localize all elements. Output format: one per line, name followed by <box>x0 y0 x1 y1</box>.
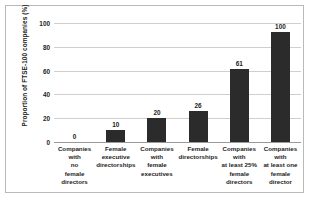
x-axis-label: Femaledirectorships <box>178 145 219 186</box>
x-axis-label: Companieswithfemaleexecutives <box>136 145 177 186</box>
bar-value-label: 61 <box>236 60 243 68</box>
bar[interactable] <box>147 118 166 142</box>
x-axis-label: Companieswithat least onefemaledirector <box>260 145 301 186</box>
bar[interactable] <box>106 130 125 142</box>
bar-group: 0 <box>54 23 95 142</box>
bar[interactable] <box>271 32 290 142</box>
plot-area: 100 80 60 40 20 0 010202661100 <box>54 23 301 142</box>
bar-value-label: 0 <box>73 133 77 141</box>
bar-group: 100 <box>260 23 301 142</box>
y-tick-0: 0 <box>46 139 50 146</box>
y-axis-title: Proportion of FTSE-100 companies (%) <box>21 4 28 128</box>
chart-figure: Proportion of FTSE-100 companies (%) 100… <box>5 5 304 193</box>
bar-group: 10 <box>95 23 136 142</box>
bar-group: 61 <box>219 23 260 142</box>
y-tick-80: 80 <box>43 43 50 50</box>
bar-series: 010202661100 <box>54 23 301 142</box>
bar-value-label: 26 <box>195 102 202 110</box>
y-tick-40: 40 <box>43 91 50 98</box>
x-axis-label: Femaleexecutivedirectorships <box>95 145 136 186</box>
bar[interactable] <box>230 69 249 142</box>
x-axis-labels: CompanieswithnofemaledirectorsFemaleexec… <box>54 145 301 186</box>
y-tick-60: 60 <box>43 67 50 74</box>
bar-value-label: 20 <box>153 109 160 117</box>
bar-value-label: 10 <box>112 121 119 129</box>
x-axis-label: Companieswithat least 25%femaledirectors <box>219 145 260 186</box>
axis-line-0 <box>54 142 301 143</box>
bar-group: 20 <box>136 23 177 142</box>
bar-value-label: 100 <box>275 23 286 31</box>
bar[interactable] <box>189 111 208 142</box>
y-tick-100: 100 <box>39 20 50 27</box>
y-tick-20: 20 <box>43 115 50 122</box>
bar-group: 26 <box>178 23 219 142</box>
x-axis-label: Companieswithnofemaledirectors <box>54 145 95 186</box>
